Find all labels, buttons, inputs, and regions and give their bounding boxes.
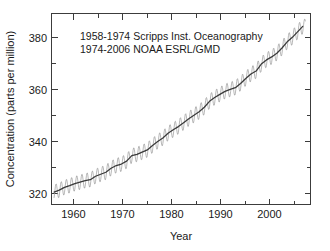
y-axis-tick-labels: 380 360 340 320 bbox=[29, 32, 47, 200]
y-tick-label-320: 320 bbox=[29, 188, 47, 200]
x-tick-label-1990: 1990 bbox=[208, 208, 232, 220]
x-tick-label-1960: 1960 bbox=[61, 208, 85, 220]
x-tick-label-2000: 2000 bbox=[257, 208, 281, 220]
chart-figure: 380 360 340 320 1960 1970 1980 1990 2000… bbox=[0, 0, 330, 251]
x-tick-label-1980: 1980 bbox=[159, 208, 183, 220]
y-tick-label-380: 380 bbox=[29, 32, 47, 44]
y-tick-label-340: 340 bbox=[29, 136, 47, 148]
y-tick-label-360: 360 bbox=[29, 84, 47, 96]
x-tick-label-1970: 1970 bbox=[110, 208, 134, 220]
y-axis-minor-ticks bbox=[52, 64, 311, 168]
x-axis-title: Year bbox=[170, 230, 193, 242]
y-axis-title: Concentration (parts per million) bbox=[4, 31, 16, 188]
co2-line-chart: 380 360 340 320 1960 1970 1980 1990 2000… bbox=[0, 0, 330, 251]
annotation-line-2: 1974-2006 NOAA ESRL/GMD bbox=[80, 43, 220, 55]
x-axis-tick-labels: 1960 1970 1980 1990 2000 bbox=[61, 208, 281, 220]
annotation-line-1: 1958-1974 Scripps Inst. Oceanography bbox=[80, 30, 263, 42]
